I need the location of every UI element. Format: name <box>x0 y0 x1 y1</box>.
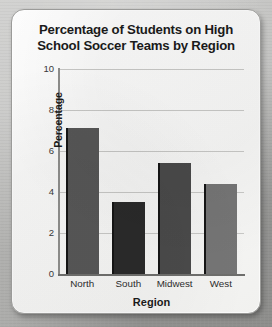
bars-container <box>59 69 244 274</box>
plot-region: 0246810 NorthSouthMidwestWest Percentage… <box>12 10 261 314</box>
x-axis-tick-label: Midwest <box>152 278 198 289</box>
bar-south <box>112 202 145 274</box>
y-axis-tick-label: 6 <box>14 145 54 156</box>
y-axis-tick-label: 8 <box>14 104 54 115</box>
y-axis-tick-label: 0 <box>14 268 54 279</box>
x-axis-tick-label: West <box>198 278 244 289</box>
x-axis-tick-label: North <box>59 278 105 289</box>
x-axis-title: Region <box>59 296 244 308</box>
bar-west <box>204 184 237 274</box>
x-axis-line <box>58 274 245 276</box>
y-axis-title: Percentage <box>52 60 64 180</box>
x-axis-tick-label: South <box>105 278 151 289</box>
y-axis-tick-label: 4 <box>14 186 54 197</box>
bar-midwest <box>158 163 191 274</box>
y-axis-tick-label: 10 <box>14 63 54 74</box>
bar-north <box>66 128 99 274</box>
y-axis-tick-label: 2 <box>14 227 54 238</box>
chart-card: Percentage of Students on High School So… <box>11 9 261 314</box>
